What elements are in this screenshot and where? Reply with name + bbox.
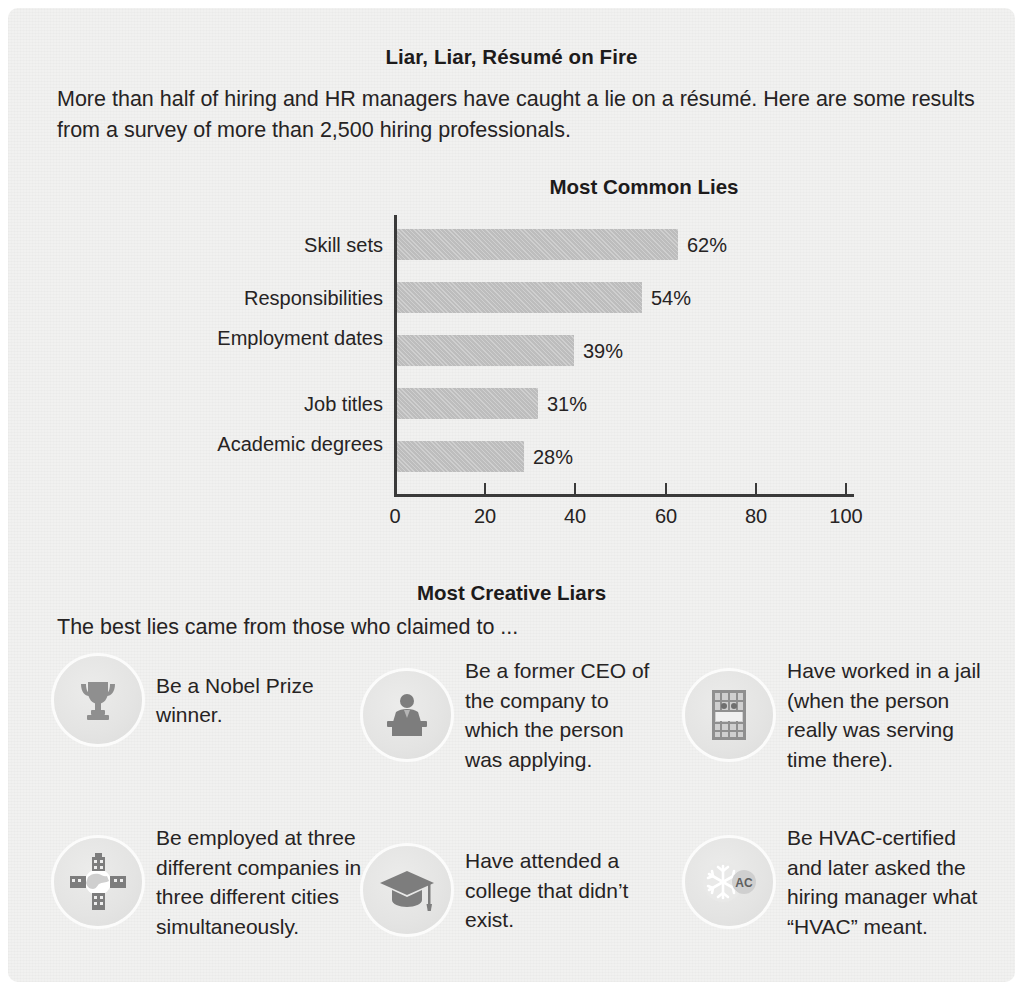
jail-window-icon [685, 671, 773, 759]
bar-value-label: 28% [533, 446, 573, 469]
x-axis-tick-label: 80 [726, 505, 786, 528]
bar-value-label: 62% [687, 234, 727, 257]
list-item-label: Have attended a college that didn’t exis… [465, 846, 663, 935]
bar-skill-sets [397, 229, 678, 260]
intro-paragraph: More than half of hiring and HR managers… [57, 84, 977, 146]
x-axis-tick-label: 0 [365, 505, 425, 528]
ac-badge-text: AC [735, 876, 753, 890]
bar-academic-degrees [397, 441, 524, 472]
snowflake-ac-icon: AC [685, 838, 773, 926]
bar-responsibilities [397, 282, 642, 313]
list-item: Have attended a college that didn’t exis… [363, 846, 663, 935]
globe-buildings-icon [54, 838, 142, 926]
x-axis-tick-label: 100 [816, 505, 876, 528]
x-axis-tick [755, 483, 757, 494]
infographic-page: Liar, Liar, Résumé on Fire More than hal… [8, 8, 1015, 982]
section-subtitle-creative-liars: The best lies came from those who claime… [57, 615, 518, 640]
bar-category-label: Responsibilities [163, 285, 383, 312]
list-item-label: Be HVAC-certified and later asked the hi… [787, 823, 995, 941]
list-item-label: Have worked in a jail (when the person r… [787, 656, 990, 774]
bar-category-label: Job titles [163, 391, 383, 418]
list-item: AC Be HVAC-certified and later asked the… [685, 823, 995, 941]
trophy-icon [54, 656, 142, 744]
bar-employment-dates [397, 335, 574, 366]
x-axis-tick-label: 60 [636, 505, 696, 528]
x-axis-tick [665, 483, 667, 494]
bar-value-label: 39% [583, 340, 623, 363]
list-item-label: Be a Nobel Prize winner. [156, 671, 354, 730]
bar-category-label: Skill sets [163, 232, 383, 259]
list-item-label: Be employed at three different companies… [156, 823, 369, 941]
bar-job-titles [397, 388, 538, 419]
chart-title: Most Common Lies [374, 175, 914, 199]
bar-category-label: Academic degrees [163, 431, 383, 458]
bar-category-label-text: Employment dates [217, 327, 383, 349]
bar-value-label: 54% [651, 287, 691, 310]
list-item: Be a Nobel Prize winner. [54, 656, 354, 744]
chart-y-axis [394, 215, 397, 495]
section-title-creative-liars: Most Creative Liars [8, 581, 1015, 605]
x-axis-tick [845, 483, 847, 494]
list-item: Be employed at three different companies… [54, 823, 369, 941]
x-axis-tick [394, 483, 396, 494]
x-axis-tick-label: 20 [455, 505, 515, 528]
x-axis-tick [574, 483, 576, 494]
x-axis-tick-label: 40 [545, 505, 605, 528]
list-item: Be a former CEO of the company to which … [363, 656, 663, 774]
chart-x-axis [394, 494, 854, 497]
bar-category-label: Employment dates [163, 325, 383, 352]
bar-value-label: 31% [547, 393, 587, 416]
executive-podium-icon [363, 671, 451, 759]
x-axis-tick [484, 483, 486, 494]
page-title: Liar, Liar, Résumé on Fire [8, 45, 1015, 69]
graduation-cap-icon [363, 846, 451, 934]
list-item-label: Be a former CEO of the company to which … [465, 656, 663, 774]
list-item: Have worked in a jail (when the person r… [685, 656, 990, 774]
